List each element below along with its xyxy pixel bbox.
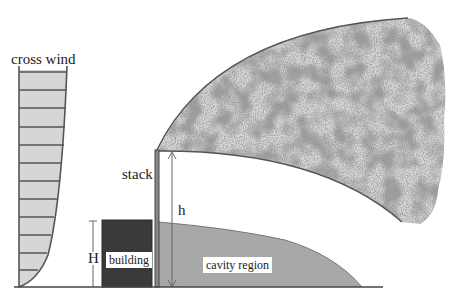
cavity-region <box>158 222 362 287</box>
stack <box>155 150 159 287</box>
cross-wind-label: cross wind <box>11 52 76 67</box>
cross-wind-profile <box>19 66 67 287</box>
building-height-label: H <box>88 251 99 266</box>
building-label: building <box>106 252 152 268</box>
cavity-region-label: cavity region <box>203 257 272 273</box>
stack-height-label: h <box>178 203 186 218</box>
stack-label: stack <box>122 167 153 182</box>
diagram-canvas <box>0 0 459 298</box>
plume <box>150 10 450 230</box>
